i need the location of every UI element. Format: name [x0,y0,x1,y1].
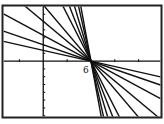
graph-plot: 6 [0,0,164,124]
x-intercept-label: 6 [83,65,89,75]
